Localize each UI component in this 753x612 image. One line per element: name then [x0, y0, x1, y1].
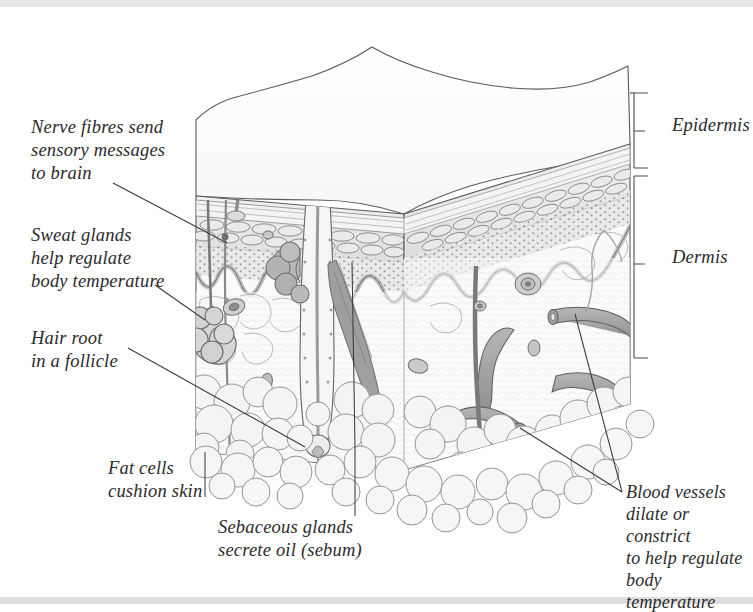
label-dermis: Dermis	[672, 246, 728, 269]
label-fat-cells: Fat cells cushion skin	[108, 457, 202, 503]
label-sweat-glands: Sweat glands help regulate body temperat…	[31, 224, 165, 293]
illustration-canvas: Nerve fibres send sensory messages to br…	[0, 0, 753, 612]
label-nerve-fibres: Nerve fibres send sensory messages to br…	[31, 116, 165, 185]
label-epidermis: Epidermis	[672, 114, 750, 137]
label-blood-vessels: Blood vessels dilate or constrict to hel…	[626, 481, 753, 612]
label-hair-root: Hair root in a follicle	[31, 327, 118, 373]
label-sebaceous-glands: Sebaceous glands secrete oil (sebum)	[218, 516, 362, 562]
